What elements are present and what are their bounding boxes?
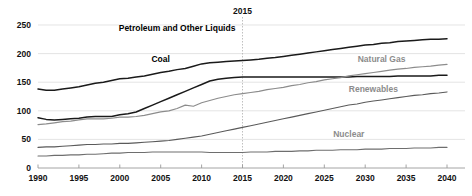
series-label: Nuclear xyxy=(333,129,365,139)
annotation-labels: 2015 xyxy=(233,6,252,16)
projection-year-label: 2015 xyxy=(233,6,252,16)
x-axis-tick-label: 1995 xyxy=(69,173,88,183)
x-axis-tick-label: 2040 xyxy=(438,173,457,183)
series-label: Coal xyxy=(151,54,169,64)
y-axis-tick-label: 250 xyxy=(17,20,31,30)
x-axis-tick-label: 2010 xyxy=(192,173,211,183)
series-label: Petroleum and Other Liquids xyxy=(119,23,236,33)
y-axis-tick-label: 100 xyxy=(17,106,31,116)
y-axis-tick-label: 50 xyxy=(22,134,32,144)
x-axis-tick-label: 2030 xyxy=(356,173,375,183)
x-axis-tick-label: 2035 xyxy=(397,173,416,183)
chart-canvas: 050100150200250 199019952000200520102015… xyxy=(0,0,472,196)
x-axis-tick-label: 1990 xyxy=(29,173,48,183)
y-axis-tick-label: 150 xyxy=(17,77,31,87)
series-line xyxy=(38,64,447,124)
series-label: Renewables xyxy=(349,84,398,94)
y-axis-tick-labels: 050100150200250 xyxy=(17,20,31,173)
x-axis-tick-label: 2000 xyxy=(110,173,129,183)
x-axis-tick-label: 2015 xyxy=(233,173,252,183)
series-line xyxy=(38,147,447,156)
x-axis-tick-label: 2020 xyxy=(274,173,293,183)
x-axis-tick-label: 2025 xyxy=(315,173,334,183)
series-label: Natural Gas xyxy=(358,54,406,64)
series-inline-labels: Petroleum and Other LiquidsCoalNatural G… xyxy=(119,23,406,139)
x-axis-tick-label: 2005 xyxy=(151,173,170,183)
y-axis-tick-label: 200 xyxy=(17,49,31,59)
energy-consumption-line-chart: 050100150200250 199019952000200520102015… xyxy=(0,0,472,196)
x-axis-tick-labels: 1990199520002005201020152020202520302035… xyxy=(29,173,457,183)
axis-group xyxy=(38,165,465,169)
y-axis-tick-label: 0 xyxy=(26,163,31,173)
